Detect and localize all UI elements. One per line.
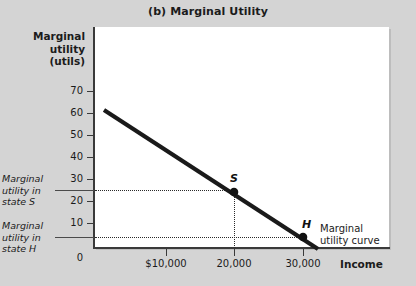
y-tick-label-40: 40 [53, 151, 83, 162]
y-tick-label-50: 50 [53, 129, 83, 140]
x-tick-label-10000: $10,000 [131, 258, 201, 269]
y-axis-title-line-2: utility [0, 43, 85, 56]
guide-line-state-h [95, 237, 305, 238]
x-tick-label-30000: 30,000 [268, 258, 338, 269]
curve-annotation-line-2: utility curve [320, 235, 410, 247]
y-tick-label-60: 60 [53, 107, 83, 118]
y-axis-title: Marginal utility (utils) [0, 30, 85, 68]
y-tick-label-70: 70 [53, 85, 83, 96]
x-tick-30000 [303, 249, 304, 256]
side-note-state-s: Marginal utility in state S [2, 173, 60, 208]
curve-annotation-line-1: Marginal [320, 223, 410, 235]
x-tick-label-20000: 20,000 [199, 258, 269, 269]
y-tick-70 [87, 91, 94, 92]
y-tick-40 [87, 157, 94, 158]
x-tick-10000 [166, 249, 167, 256]
data-point-s-label: S [230, 172, 238, 185]
x-axis-title: Income [340, 258, 410, 270]
y-axis-line [93, 27, 95, 249]
guide-line-state-s [95, 190, 235, 191]
plot-area [94, 27, 389, 248]
y-tick-10 [87, 223, 94, 224]
side-note-state-s-line-2: utility in [2, 185, 60, 197]
y-tick-60 [87, 113, 94, 114]
side-note-state-h: Marginal utility in state H [2, 220, 60, 255]
side-note-state-s-line-3: state S [2, 196, 60, 208]
guide-line-income-20000 [234, 191, 235, 248]
y-axis-title-line-3: (utils) [0, 55, 85, 68]
x-tick-20000 [234, 249, 235, 256]
side-note-state-h-line-2: utility in [2, 232, 60, 244]
leader-line-state-s [55, 190, 94, 191]
data-point-h-label: H [302, 218, 311, 231]
marginal-utility-figure: (b) Marginal Utility Marginal utility (u… [0, 0, 416, 286]
y-axis-title-line-1: Marginal [0, 30, 85, 43]
side-note-state-s-line-1: Marginal [2, 173, 60, 185]
leader-line-state-h [55, 237, 94, 238]
side-note-state-h-line-3: state H [2, 243, 60, 255]
y-tick-30 [87, 179, 94, 180]
x-axis-line [93, 247, 390, 249]
y-tick-20 [87, 201, 94, 202]
y-tick-50 [87, 135, 94, 136]
side-note-state-h-line-1: Marginal [2, 220, 60, 232]
curve-annotation: Marginal utility curve [320, 223, 410, 247]
figure-title: (b) Marginal Utility [0, 5, 416, 18]
